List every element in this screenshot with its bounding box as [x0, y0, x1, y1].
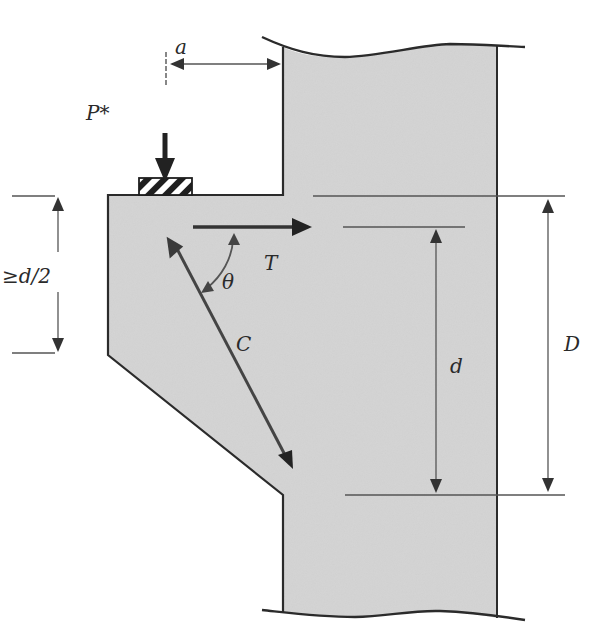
effective-depth-label: d: [450, 354, 463, 378]
load-label: P*: [85, 101, 109, 125]
load-arrow-icon: [155, 133, 175, 182]
overall-depth-label: D: [563, 332, 580, 356]
strut-label: C: [236, 332, 251, 356]
shear-span-label: a: [175, 35, 187, 59]
shear-span-dimension: [170, 58, 281, 70]
tie-label: T: [264, 251, 279, 275]
outer-depth-label: ≥d/2: [2, 264, 51, 288]
corbel-diagram: P* a ≥d/2 T C θ: [0, 0, 616, 643]
angle-label: θ: [222, 270, 234, 294]
